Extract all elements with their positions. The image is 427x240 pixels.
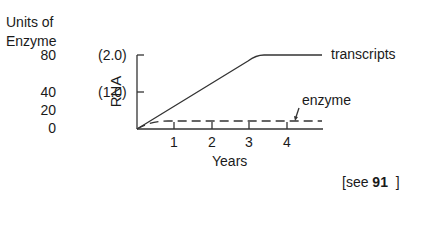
transcripts-line: [137, 55, 322, 129]
enzyme-label: enzyme: [302, 92, 351, 108]
reference-prefix: [see: [342, 174, 368, 190]
reference-suffix: ]: [396, 174, 400, 190]
x-tick-label-1: 1: [170, 134, 178, 150]
reference-number: 91: [372, 174, 388, 190]
x-axis-title: Years: [212, 153, 247, 169]
x-tick-label-2: 2: [208, 134, 216, 150]
enzyme-line: [137, 121, 322, 129]
enzyme-arrowhead-icon: [294, 116, 298, 121]
x-tick-label-3: 3: [245, 134, 253, 150]
x-tick-label-4: 4: [283, 134, 291, 150]
enzyme-arrow: [296, 108, 299, 117]
reference-note: [see 91 ]: [342, 174, 400, 190]
transcripts-label: transcripts: [331, 46, 396, 62]
